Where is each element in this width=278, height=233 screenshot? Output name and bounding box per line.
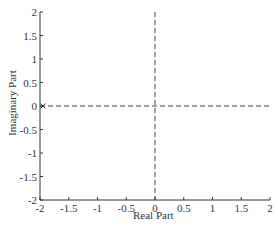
- plot-area: -2-1.5-1-0.500.511.52-2-1.5-1-0.500.511.…: [20, 6, 273, 214]
- y-tick-label: -2: [28, 194, 37, 206]
- y-tick-label: 0.5: [23, 77, 37, 89]
- x-tick-label: -1.5: [60, 202, 78, 214]
- x-tick-label: 1.5: [234, 202, 248, 214]
- x-tick-label: 1: [210, 202, 216, 214]
- y-axis-title: Imaginary Part: [6, 67, 18, 139]
- x-axis-title: Real Part: [133, 209, 174, 221]
- y-tick-label: -1.5: [20, 171, 38, 183]
- y-tick-label: -1: [28, 147, 37, 159]
- pole-zero-plot: -2-1.5-1-0.500.511.52-2-1.5-1-0.500.511.…: [0, 0, 278, 233]
- x-tick-label: -1: [93, 202, 102, 214]
- x-tick-label: 2: [267, 202, 273, 214]
- y-tick-label: 0: [32, 100, 38, 112]
- x-tick-label: 0.5: [177, 202, 191, 214]
- y-tick-label: 1.5: [23, 30, 37, 42]
- y-tick-label: -0.5: [20, 124, 38, 136]
- y-tick-label: 2: [32, 6, 38, 18]
- y-tick-label: 1: [32, 53, 38, 65]
